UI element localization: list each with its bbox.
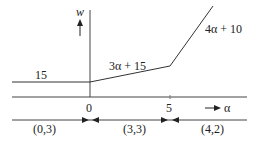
x-axis-label: α bbox=[224, 101, 231, 115]
arrowhead-right-at-5 bbox=[161, 117, 168, 123]
arrowhead-right-at-0 bbox=[82, 117, 89, 123]
y-axis-label: w bbox=[76, 5, 84, 19]
right-arrowhead-icon bbox=[214, 105, 221, 111]
x-tick-0: 0 bbox=[86, 101, 92, 115]
arrowhead-left-at-5 bbox=[172, 117, 179, 123]
up-arrowhead-icon bbox=[77, 19, 83, 26]
arrowhead-left-at-0 bbox=[92, 117, 99, 123]
interval-label-3: (4,2) bbox=[201, 122, 224, 136]
interval-label-1: (0,3) bbox=[33, 122, 56, 136]
interval-label-2: (3,3) bbox=[123, 122, 146, 136]
x-tick-5: 5 bbox=[166, 101, 172, 115]
piecewise-linear-diagram: w 15 3α + 15 4α + 10 0 5 α (0,3) (3,3) (… bbox=[0, 0, 257, 142]
segment-label-1: 15 bbox=[35, 68, 47, 82]
segment-label-3: 4α + 10 bbox=[205, 22, 242, 36]
segment-label-2: 3α + 15 bbox=[109, 59, 146, 73]
